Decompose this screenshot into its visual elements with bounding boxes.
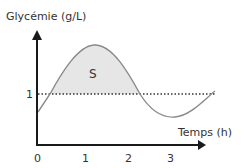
glycemia-chart: Glycémie (g/L) Temps (h) 1 0 1 2 3 S <box>0 0 244 168</box>
area-label-s: S <box>89 67 97 81</box>
x-axis-arrow-icon <box>198 140 206 150</box>
y-axis-title: Glycémie (g/L) <box>6 10 86 23</box>
y-tick-1: 1 <box>26 88 33 101</box>
x-tick-2: 2 <box>125 152 132 165</box>
x-tick-0: 0 <box>34 152 41 165</box>
x-tick-3: 3 <box>167 152 174 165</box>
y-axis-arrow-icon <box>32 30 42 40</box>
x-axis-title: Temps (h) <box>177 126 232 139</box>
x-tick-1: 1 <box>82 152 89 165</box>
